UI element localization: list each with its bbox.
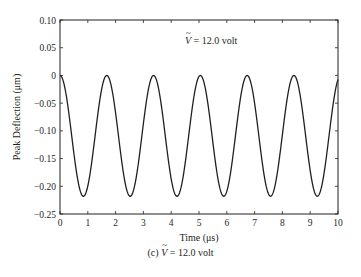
v-tilde-symbol: V xyxy=(185,35,191,46)
x-tick-label: 6 xyxy=(224,218,229,228)
x-tick-label: 3 xyxy=(141,218,146,228)
caption-prefix: (c) xyxy=(148,247,162,258)
y-axis-label: Peak Deflection (μm) xyxy=(11,74,23,160)
plot-frame xyxy=(60,20,338,214)
deflection-curve xyxy=(60,75,338,196)
y-tick-label: −0.10 xyxy=(34,126,56,136)
y-tick-label: 0.10 xyxy=(39,16,56,26)
x-tick-label: 2 xyxy=(113,218,118,228)
voltage-annotation: V = 12.0 volt xyxy=(185,35,237,46)
caption-suffix: = 12.0 volt xyxy=(167,247,213,258)
y-tick-label: 0 xyxy=(51,71,56,81)
x-tick-label: 4 xyxy=(169,218,174,228)
y-tick-label: −0.05 xyxy=(34,99,56,109)
y-tick-label: −0.20 xyxy=(34,182,56,192)
annotation-value: = 12.0 volt xyxy=(191,35,237,46)
y-tick-label: 0.05 xyxy=(39,43,56,53)
chart-svg: 0123456789100.100.050−0.05−0.10−0.15−0.2… xyxy=(0,0,361,277)
x-tick-label: 8 xyxy=(280,218,285,228)
y-tick-label: −0.15 xyxy=(34,154,56,164)
x-axis-label: Time (μs) xyxy=(179,232,218,244)
x-tick-label: 10 xyxy=(333,218,343,228)
y-tick-label: −0.25 xyxy=(34,210,56,220)
x-tick-label: 7 xyxy=(252,218,257,228)
figure-caption: (c) V = 12.0 volt xyxy=(0,247,361,258)
x-tick-label: 1 xyxy=(85,218,90,228)
x-tick-label: 5 xyxy=(197,218,202,228)
caption-v-symbol: V xyxy=(161,247,167,258)
x-tick-label: 9 xyxy=(308,218,313,228)
x-tick-label: 0 xyxy=(58,218,63,228)
